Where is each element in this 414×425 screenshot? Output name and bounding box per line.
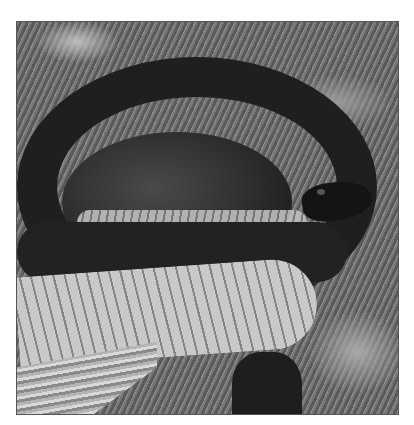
snake-tail (232, 352, 302, 415)
snake-eye (317, 189, 325, 195)
snake-photo (16, 21, 399, 415)
